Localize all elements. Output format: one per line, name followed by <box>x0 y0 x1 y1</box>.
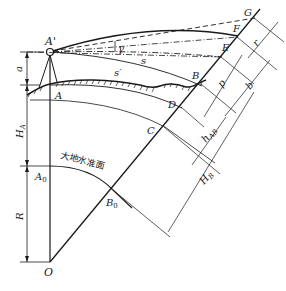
label-H_A: HA <box>14 124 27 139</box>
label-p: p <box>215 77 228 89</box>
leveling-diagram: A' A B C D E F G O A0 B0 γ s s′ a HA R r… <box>0 0 286 291</box>
label-h_AB: hAB <box>199 124 220 145</box>
level-surface-C <box>30 100 215 163</box>
label-s: s <box>141 55 146 66</box>
sight-line-curved <box>53 31 238 51</box>
tangent-line-F <box>53 37 238 52</box>
label-D: D <box>167 99 176 110</box>
label-F: F <box>232 23 241 34</box>
horizontal-line-Aprime <box>27 52 222 57</box>
label-G: G <box>244 7 252 18</box>
label-a: a <box>13 66 24 72</box>
level-surface-A <box>50 85 182 108</box>
extension-lines <box>113 18 284 237</box>
label-H_B: HB <box>196 169 216 189</box>
label-s-prime: s′ <box>114 67 122 78</box>
datum-surface <box>50 166 132 208</box>
label-E: E <box>221 42 230 53</box>
label-A0: A0 <box>34 171 47 184</box>
label-R: R <box>14 212 25 221</box>
label-O: O <box>44 266 53 279</box>
instrument-icon <box>39 49 57 89</box>
label-A: A <box>54 90 62 101</box>
label-B: B <box>191 70 199 81</box>
label-gamma: γ <box>118 43 124 54</box>
label-C: C <box>147 125 155 136</box>
label-A-prime: A' <box>44 35 56 48</box>
label-b: b <box>243 79 256 91</box>
left-dimensions <box>20 52 50 262</box>
ground-surface <box>27 80 206 95</box>
label-B0: B0 <box>105 197 118 210</box>
